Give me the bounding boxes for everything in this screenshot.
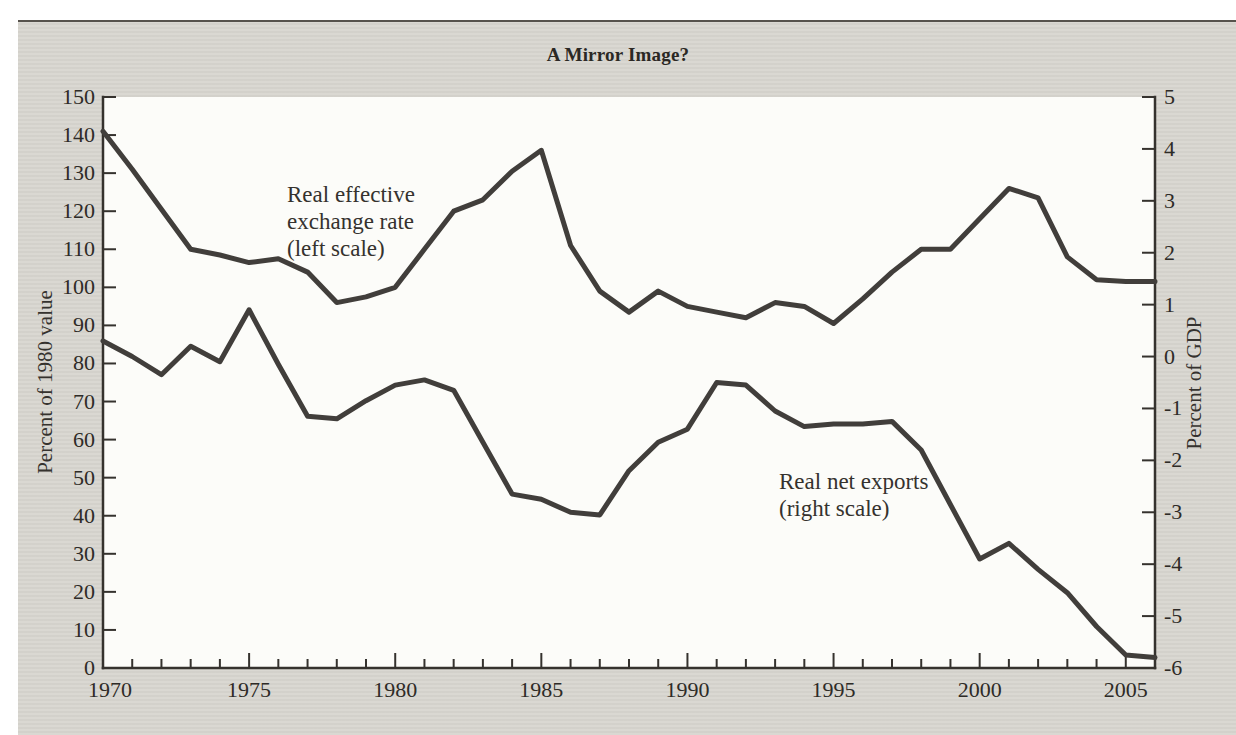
left-axis-title: Percent of 1980 value <box>33 290 58 474</box>
x-axis-tick-label: 2000 <box>958 677 1002 702</box>
left-axis-tick-label: 130 <box>62 160 95 185</box>
right-axis-tick-label: -5 <box>1164 603 1182 628</box>
chart-svg: 0102030405060708090100110120130140150-6-… <box>0 0 1236 735</box>
right-axis-tick-label: 4 <box>1164 136 1175 161</box>
right-axis-tick-label: 3 <box>1164 188 1175 213</box>
x-axis-tick-label: 1985 <box>519 677 563 702</box>
right-axis-tick-label: -2 <box>1164 447 1182 472</box>
book-page: 0102030405060708090100110120130140150-6-… <box>0 0 1236 735</box>
left-axis-tick-label: 150 <box>62 84 95 109</box>
x-axis-tick-label: 1975 <box>227 677 271 702</box>
x-axis-tick-label: 1970 <box>88 677 132 702</box>
right-axis-tick-label: 2 <box>1164 240 1175 265</box>
left-axis-tick-label: 70 <box>73 389 95 414</box>
left-axis-tick-label: 10 <box>73 617 95 642</box>
left-axis-tick-label: 140 <box>62 122 95 147</box>
right-axis-tick-label: 1 <box>1164 292 1175 317</box>
left-axis-tick-label: 40 <box>73 503 95 528</box>
figure-title: A Mirror Image? <box>0 44 1236 66</box>
right-axis-tick-label: -1 <box>1164 395 1182 420</box>
x-axis-tick-label: 1990 <box>665 677 709 702</box>
net-exports-annotation: Real net exports (right scale) <box>779 468 928 522</box>
left-axis-tick-label: 100 <box>62 274 95 299</box>
right-axis-title: Percent of GDP <box>1182 317 1207 450</box>
right-axis-tick-label: -4 <box>1164 551 1182 576</box>
right-axis-tick-label: 5 <box>1164 84 1175 109</box>
left-axis-tick-label: 30 <box>73 541 95 566</box>
x-axis-tick-label: 1995 <box>812 677 856 702</box>
left-axis-tick-label: 80 <box>73 350 95 375</box>
plot-area <box>103 97 1155 668</box>
x-axis-tick-label: 1980 <box>373 677 417 702</box>
right-axis-tick-label: -3 <box>1164 499 1182 524</box>
left-axis-tick-label: 60 <box>73 427 95 452</box>
left-axis-tick-label: 50 <box>73 465 95 490</box>
right-axis-tick-label: 0 <box>1164 344 1175 369</box>
x-axis-tick-label: 2005 <box>1104 677 1148 702</box>
left-axis-tick-label: 20 <box>73 579 95 604</box>
exchange-rate-annotation: Real effective exchange rate (left scale… <box>287 181 415 262</box>
left-axis-tick-label: 120 <box>62 198 95 223</box>
right-axis-tick-label: -6 <box>1164 655 1182 680</box>
left-axis-tick-label: 110 <box>63 236 95 261</box>
left-axis-tick-label: 90 <box>73 312 95 337</box>
